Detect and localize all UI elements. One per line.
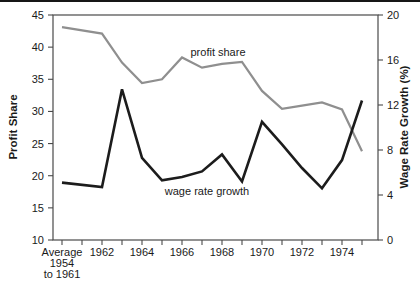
left-axis-tick-label: 35: [32, 73, 44, 85]
left-axis-tick-label: 30: [32, 105, 44, 117]
x-axis-year-label: 1972: [290, 246, 314, 258]
chart-figure: 4540353025201510201612840Average1954to 1…: [0, 0, 420, 290]
left-axis-tick-label: 25: [32, 138, 44, 150]
series-inline-label-profit-share: profit share: [190, 46, 245, 58]
x-axis-year-label: 1962: [90, 246, 114, 258]
profit-share-wage-growth-line-chart: 4540353025201510201612840Average1954to 1…: [0, 0, 420, 290]
figure-top-rule: [0, 0, 420, 2]
right-axis-title: Wage Rate Growth (%): [398, 65, 410, 188]
right-axis-tick-label: 16: [387, 54, 399, 66]
x-axis-year-label: 1968: [210, 246, 234, 258]
x-axis-year-label: 1964: [130, 246, 154, 258]
left-axis-tick-label: 20: [32, 170, 44, 182]
left-axis-title: Profit Share: [7, 94, 19, 159]
right-axis-tick-label: 0: [387, 234, 393, 246]
left-axis-tick-label: 15: [32, 202, 44, 214]
left-axis-tick-label: 45: [32, 9, 44, 21]
left-axis-tick-label: 40: [32, 41, 44, 53]
right-axis-tick-label: 8: [387, 144, 393, 156]
series-inline-label-wage-rate-growth: wage rate growth: [164, 185, 249, 197]
right-axis-tick-label: 20: [387, 9, 399, 21]
left-axis-tick-label: 10: [32, 234, 44, 246]
x-axis-average-label: to 1961: [44, 268, 81, 280]
chart-generated-layer: 4540353025201510201612840Average1954to 1…: [32, 9, 400, 280]
x-axis-year-label: 1974: [330, 246, 354, 258]
right-axis-tick-label: 4: [387, 189, 393, 201]
x-axis-year-label: 1970: [250, 246, 274, 258]
x-axis-year-label: 1966: [170, 246, 194, 258]
